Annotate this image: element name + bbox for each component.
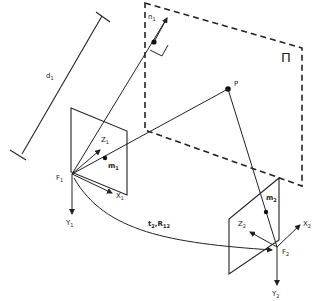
camera1-center-label: F1 (56, 174, 63, 183)
ray-f1-p (72, 86, 231, 174)
camera2-y-label: Y2 (271, 290, 279, 299)
camera1-y-label: Y1 (65, 219, 73, 228)
plane-pi (145, 3, 302, 186)
camera2-z-label: Z2 (238, 220, 246, 229)
camera1-projection-label: m1 (108, 162, 119, 171)
camera2-center-label: F2 (282, 248, 289, 257)
ray-p-f2 (228, 89, 277, 247)
point-p-label: P (234, 80, 238, 88)
camera2-projection-label: m2 (266, 194, 277, 203)
normal-label: n1 (148, 13, 156, 22)
camera2-x-label: X2 (303, 220, 311, 229)
plane-label: Π (281, 50, 291, 65)
distance-bar (10, 12, 110, 160)
diagram-canvas: Π d1 n1 P Z1 X1 Y1 F1 m1 (0, 0, 318, 301)
normal-line (72, 18, 168, 174)
transform-label: t2,R12 (148, 220, 170, 229)
camera2-image-plane (229, 178, 279, 274)
distance-label: d1 (46, 72, 54, 81)
camera1-z-label: Z1 (101, 136, 109, 145)
